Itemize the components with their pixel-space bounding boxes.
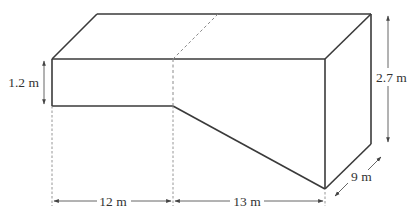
dimension-deep-depth: 2.7 m — [376, 16, 407, 142]
dimension-sloped-length: 13 m — [175, 194, 323, 209]
label-shallow-depth: 1.2 m — [8, 75, 39, 90]
prism-hidden-edges — [173, 14, 218, 106]
dimension-arrow-width-lower — [335, 183, 348, 196]
dimension-width: 9 m — [335, 157, 381, 196]
dimension-flat-length: 12 m — [54, 194, 171, 209]
hidden-edge-top-divider — [173, 14, 218, 59]
label-deep-depth: 2.7 m — [376, 70, 407, 85]
dimension-shallow-depth: 1.2 m — [8, 61, 44, 104]
edge-top-right-diagonal — [325, 14, 371, 59]
extension-lines — [52, 106, 325, 206]
edge-top-left-diagonal — [52, 14, 97, 59]
edge-front-sloped-bottom — [173, 106, 325, 189]
label-sloped-length: 13 m — [233, 194, 261, 209]
prism-visible-edges — [52, 14, 371, 189]
label-width: 9 m — [351, 169, 372, 184]
pool-prism-diagram: 1.2 m 2.7 m 12 m 13 m 9 m — [0, 0, 417, 219]
label-flat-length: 12 m — [99, 194, 127, 209]
